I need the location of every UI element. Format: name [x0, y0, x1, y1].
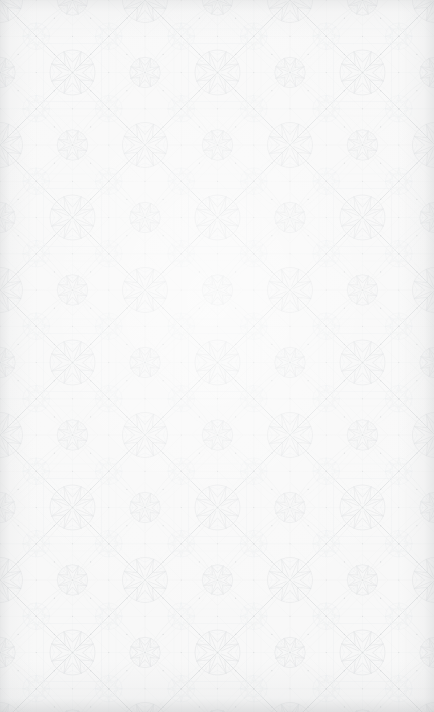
pattern-fill-rect — [0, 0, 434, 712]
arabesque-pattern-layer — [0, 0, 434, 712]
pattern-svg — [0, 0, 434, 712]
pattern-canvas — [0, 0, 434, 712]
